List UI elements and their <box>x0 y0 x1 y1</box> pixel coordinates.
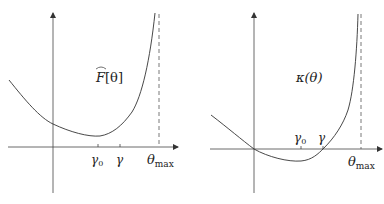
right-panel: κ(θ) γ0 γ θmax <box>210 13 382 193</box>
right-curve-kappa-theta <box>211 14 358 161</box>
right-tick-label-gamma0: γ0 <box>294 131 306 146</box>
left-tick-label-gamma0: γ0 <box>91 153 103 168</box>
figure-canvas: F[θ] γ0 γ θmax κ(θ) γ0 γ θmax <box>0 0 384 204</box>
left-function-hat <box>96 67 106 69</box>
left-asymptote-label-theta-max: θmax <box>147 152 174 169</box>
right-function-label: κ(θ) <box>295 70 323 85</box>
left-function-label: F[θ] <box>95 70 123 85</box>
right-tick-label-gamma: γ <box>318 131 326 145</box>
right-asymptote-label-theta-max: θmax <box>348 154 375 171</box>
left-curve-F-theta <box>9 13 155 136</box>
left-panel: F[θ] γ0 γ θmax <box>8 13 178 193</box>
left-tick-label-gamma: γ <box>116 153 124 167</box>
